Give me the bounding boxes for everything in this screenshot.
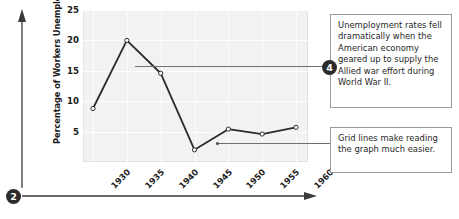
data-point-marker [294,125,298,129]
callout-2-text: Grid lines make reading the graph much e… [338,133,438,154]
badge-chart-2: 2 [6,189,21,204]
callout-box-1: Unemployment rates fell dramatically whe… [330,14,452,108]
data-point-marker [192,148,196,152]
series-polyline [93,40,296,149]
data-point-marker [159,71,163,75]
data-series-line [83,10,308,162]
callout-1-leader-line [135,66,322,67]
data-point-marker [125,38,129,42]
y-axis-title: Percentage of Workers Unemployed [52,0,62,144]
badge-callout-4: 4 [322,60,337,75]
x-axis-arrow-icon [20,186,320,206]
data-point-marker [91,106,95,110]
callout-box-2: Grid lines make reading the graph much e… [330,127,452,173]
data-point-marker [260,132,264,136]
plot-wrap: 510152025 1930193519401945195019551960 [83,10,308,162]
y-axis-tick-label: 20 [67,35,79,45]
callout-1-text: Unemployment rates fell dramatically whe… [338,20,442,87]
data-point-marker [226,127,230,131]
chart-block: Percentage of Workers Unemployed 5101520… [30,6,312,186]
unemployment-chart-figure: Percentage of Workers Unemployed 5101520… [0,0,459,219]
y-axis-tick-label: 25 [67,5,79,15]
y-axis-arrow-icon [14,6,30,192]
y-axis-tick-label: 15 [67,66,79,76]
y-axis-tick-label: 10 [67,96,79,106]
y-axis-tick-label: 5 [73,127,79,137]
callout-2-leader-line [219,143,330,144]
